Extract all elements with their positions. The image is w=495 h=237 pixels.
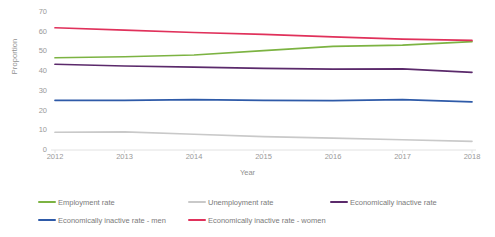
legend-swatch-economically-inactive-rate-women	[188, 219, 206, 221]
series-line-economically-inactive-rate-men	[55, 100, 472, 102]
y-axis-tick-label: 30	[21, 87, 47, 95]
legend-label-economically-inactive-rate: Economically inactive rate	[350, 198, 437, 207]
legend-label-employment-rate: Employment rate	[58, 198, 115, 207]
y-axis-tick-label: 40	[21, 67, 47, 75]
chart-legend: Employment rate Unemployment rate Econom…	[0, 192, 495, 237]
y-axis-tick-label: 10	[21, 126, 47, 134]
series-line-unemployment-rate	[55, 132, 472, 141]
legend-row-1: Employment rate Unemployment rate Econom…	[0, 194, 495, 210]
legend-item-economically-inactive-rate[interactable]: Economically inactive rate	[330, 194, 437, 210]
x-axis-tick-label: 2017	[383, 152, 423, 161]
x-axis-title: Year	[0, 168, 495, 177]
legend-item-economically-inactive-rate-men[interactable]: Economically inactive rate - men	[38, 212, 166, 228]
plot-area: Proportion Year 010203040506070 20122013…	[0, 0, 495, 190]
x-axis-tick-label: 2013	[105, 152, 145, 161]
x-axis-tick-label: 2012	[35, 152, 75, 161]
legend-swatch-economically-inactive-rate-men	[38, 219, 56, 221]
series-line-employment-rate	[55, 42, 472, 58]
legend-item-economically-inactive-rate-women[interactable]: Economically inactive rate - women	[188, 212, 326, 228]
legend-swatch-economically-inactive-rate	[330, 201, 348, 203]
y-axis-tick-label: 50	[21, 47, 47, 55]
x-axis-tick-label: 2015	[244, 152, 284, 161]
legend-item-employment-rate[interactable]: Employment rate	[38, 194, 115, 210]
series-line-economically-inactive-rate	[55, 64, 472, 72]
legend-swatch-employment-rate	[38, 201, 56, 203]
x-axis-tick-label: 2014	[174, 152, 214, 161]
y-axis-tick-label: 60	[21, 28, 47, 36]
legend-label-economically-inactive-rate-women: Economically inactive rate - women	[208, 216, 326, 225]
y-axis-tick-label: 70	[21, 8, 47, 16]
line-chart: Proportion Year 010203040506070 20122013…	[0, 0, 495, 237]
legend-label-economically-inactive-rate-men: Economically inactive rate - men	[58, 216, 166, 225]
legend-label-unemployment-rate: Unemployment rate	[208, 198, 273, 207]
legend-row-2: Economically inactive rate - men Economi…	[0, 212, 495, 228]
series-layer	[55, 28, 472, 142]
legend-item-unemployment-rate[interactable]: Unemployment rate	[188, 194, 273, 210]
x-axis-tick-label: 2016	[313, 152, 353, 161]
y-axis-title: Proportion	[10, 22, 19, 92]
x-axis-tick-label: 2018	[452, 152, 492, 161]
y-axis-tick-label: 20	[21, 107, 47, 115]
chart-canvas	[0, 0, 495, 190]
series-line-economically-inactive-rate-women	[55, 28, 472, 41]
legend-swatch-unemployment-rate	[188, 201, 206, 203]
